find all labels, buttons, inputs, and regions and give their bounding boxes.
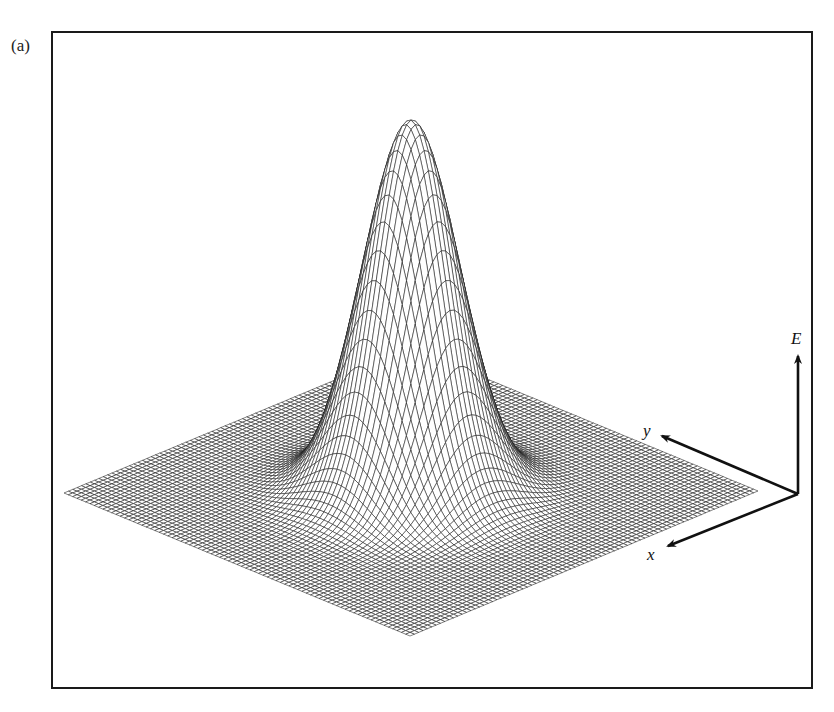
y-axis-label: y bbox=[643, 421, 651, 441]
e-axis-label: E bbox=[791, 329, 801, 349]
x-axis-label: x bbox=[647, 545, 655, 565]
surface-plot bbox=[0, 0, 834, 712]
